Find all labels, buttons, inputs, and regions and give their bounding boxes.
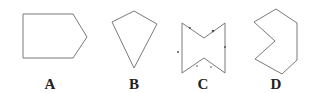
- label-b: B: [129, 76, 139, 93]
- tick-mark: [189, 27, 191, 29]
- label-d: D: [271, 76, 282, 93]
- tick-mark: [224, 46, 226, 48]
- shape-d-concave-heptagon: [254, 9, 297, 74]
- shape-a-pentagon: [23, 14, 87, 58]
- tick-mark: [212, 30, 215, 33]
- label-a: A: [45, 76, 56, 93]
- tick-mark: [177, 51, 179, 53]
- shape-c-concave-hexagon: [182, 23, 225, 73]
- label-c: C: [198, 76, 209, 93]
- shape-b-kite: [112, 11, 157, 68]
- tick-mark: [210, 66, 212, 68]
- shape-c-tick-marks: [177, 27, 226, 68]
- tick-mark: [196, 65, 198, 67]
